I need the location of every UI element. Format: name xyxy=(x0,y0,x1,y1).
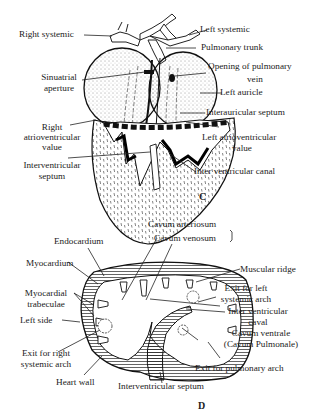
label-interventricular-septum-d: Interventricular septum xyxy=(118,381,204,392)
label-right-av-3: value xyxy=(16,142,88,153)
label-cavum-ventrale-2: (Cavum Pulmonale) xyxy=(218,339,304,350)
label-opening-pulmonary-vein-2: vein xyxy=(247,74,263,85)
label-inter-ventricular-caval: Inter ventricular xyxy=(220,306,296,317)
label-interventricular-septum-c: Interventricular xyxy=(16,160,88,171)
label-pulmonary-trunk: Pulmonary trunk xyxy=(201,42,263,53)
label-right-av: Right xyxy=(16,122,88,133)
label-exit-right-systemic: Exit for right xyxy=(14,348,78,359)
label-myocardial-trabeculae: Myocardial xyxy=(16,288,76,299)
label-myocardial-trabeculae-2: trabeculae xyxy=(16,299,76,310)
label-heart-wall: Heart wall xyxy=(56,377,95,388)
label-left-systemic: Left systemic xyxy=(200,24,250,35)
label-left-av: Left atrioventricular xyxy=(202,132,276,143)
label-interauricular-septum: Interauricular septum xyxy=(206,107,285,118)
label-opening-pulmonary-vein: Opening of pulmonary xyxy=(208,61,292,72)
label-exit-pulmonary-arch: Exit for pulmonary arch xyxy=(195,363,284,374)
label-right-systemic: Right systemic xyxy=(19,29,74,40)
panel-caption-d: D xyxy=(198,400,205,411)
label-exit-left-systemic-2: systemic arch xyxy=(216,294,276,305)
label-cavum-ventrale: Cavum ventrale xyxy=(218,328,304,339)
label-myocardium: Myocardium xyxy=(26,258,73,269)
label-sinuatrial-2: aperture xyxy=(34,83,84,94)
label-exit-right-systemic-2: systemic arch xyxy=(14,359,78,370)
label-inter-ventricular-caval-2: caval xyxy=(220,317,296,328)
heart-anatomy-figure: Right systemic Left systemic Pulmonary t… xyxy=(0,0,315,413)
label-left-side: Left side xyxy=(20,315,52,326)
panel-caption-c: C xyxy=(199,191,206,202)
label-right-av-2: atrioventricular xyxy=(16,132,88,143)
label-cavum-arteriosum: Cavum arteriosum xyxy=(148,219,216,230)
label-interventricular-septum-c-2: septum xyxy=(16,171,88,182)
label-exit-left-systemic: Exit for left xyxy=(216,283,276,294)
label-cavum-venosum: Cavum venosum xyxy=(154,233,216,244)
label-sinuatrial: Sinuatrial xyxy=(34,72,84,83)
label-left-av-2: value xyxy=(232,143,252,154)
label-muscular-ridge: Muscular ridge xyxy=(240,264,296,275)
label-endocardium: Endocardium xyxy=(54,236,104,247)
label-left-auricle: Left auricle xyxy=(220,87,263,98)
label-inter-ventricular-canal: Inter ventricular canal xyxy=(194,166,275,177)
